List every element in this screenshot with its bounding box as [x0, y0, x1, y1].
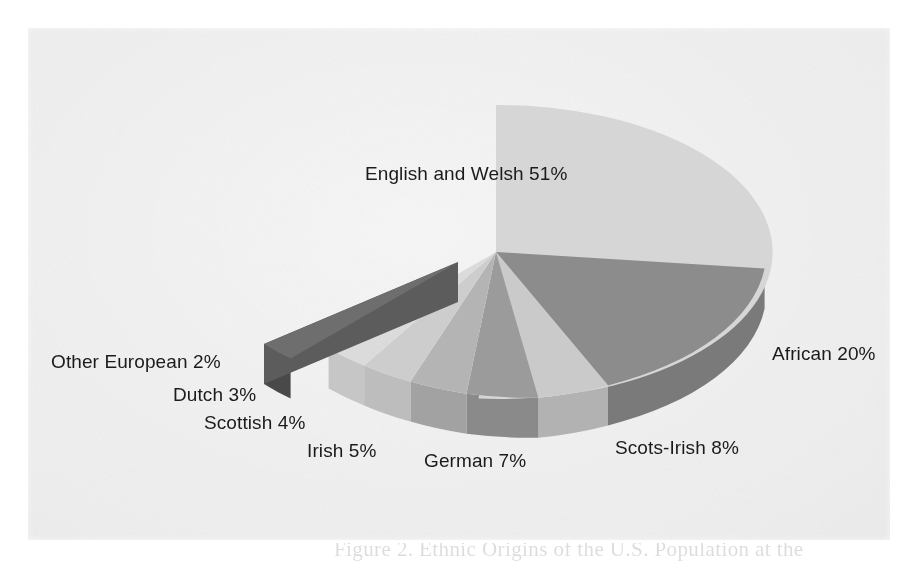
label-other-european: Other European 2%: [51, 351, 221, 373]
figure-page: English and Welsh 51% African 20% Scots-…: [0, 0, 911, 569]
label-dutch: Dutch 3%: [173, 384, 256, 406]
label-irish: Irish 5%: [307, 440, 376, 462]
label-german: German 7%: [424, 450, 526, 472]
pie-chart: English and Welsh 51% African 20% Scots-…: [0, 0, 911, 569]
page-bleed-text: Figure 2. Ethnic Origins of the U.S. Pop…: [34, 543, 884, 569]
label-english-and-welsh: English and Welsh 51%: [365, 163, 567, 185]
page-bleed-text-line: Figure 2. Ethnic Origins of the U.S. Pop…: [334, 543, 804, 561]
label-scots-irish: Scots-Irish 8%: [615, 437, 739, 459]
pie-chart-graphic: [0, 0, 911, 569]
label-african: African 20%: [772, 343, 876, 365]
slice-side-german: [467, 394, 539, 438]
label-scottish: Scottish 4%: [204, 412, 305, 434]
